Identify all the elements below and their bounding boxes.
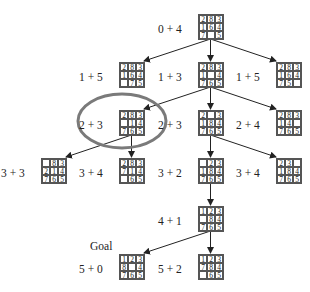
tile: 8 — [120, 263, 128, 271]
tile: 5 — [215, 223, 223, 231]
tile: 7 — [42, 175, 50, 183]
tile: 1 — [277, 167, 285, 175]
tile: 7 — [277, 175, 285, 183]
tile: 8 — [207, 63, 215, 71]
tile: 5 — [215, 271, 223, 279]
node-cost-label: 3 + 3 — [1, 167, 25, 179]
tile: 7 — [199, 79, 207, 87]
tile: 5 — [215, 127, 223, 135]
tile: 7 — [199, 31, 207, 39]
tile: 5 — [215, 79, 223, 87]
tile: 8 — [50, 159, 58, 167]
tile: 6 — [128, 175, 136, 183]
tile: 5 — [136, 271, 144, 279]
tile: 1 — [128, 167, 136, 175]
puzzle-board: 28371465 — [119, 158, 145, 184]
tile: 4 — [215, 263, 223, 271]
tile: 5 — [293, 127, 301, 135]
puzzle-board: 12384765 — [119, 254, 145, 280]
tile: 3 — [285, 159, 293, 167]
tile: 8 — [207, 215, 215, 223]
tile: 2 — [199, 63, 207, 71]
tile: 4 — [136, 263, 144, 271]
tile: 7 — [199, 127, 207, 135]
tile: 1 — [128, 119, 136, 127]
blank-tile — [120, 119, 128, 127]
tile: 6 — [285, 71, 293, 79]
tile: 2 — [207, 255, 215, 263]
tile: 3 — [215, 63, 223, 71]
edges-layer — [0, 0, 310, 292]
tile: 4 — [58, 167, 66, 175]
tile: 8 — [128, 111, 136, 119]
blank-tile — [199, 271, 207, 279]
blank-tile — [207, 71, 215, 79]
tile: 8 — [207, 15, 215, 23]
node-cost-label: 1 + 5 — [236, 71, 260, 83]
tile: 1 — [277, 71, 285, 79]
tile: 4 — [215, 23, 223, 31]
tile: 1 — [199, 119, 207, 127]
node-cost-label: 3 + 4 — [79, 167, 103, 179]
node-cost-label: 2 + 3 — [79, 119, 103, 131]
node-cost-label: 1 + 3 — [158, 71, 182, 83]
tile: 3 — [136, 159, 144, 167]
node-cost-label: 3 + 4 — [236, 167, 260, 179]
node-cost-label: 2 + 3 — [158, 119, 182, 131]
tile: 2 — [120, 159, 128, 167]
tree-edge-arrow — [66, 135, 132, 157]
node-cost-label: 2 + 4 — [236, 119, 260, 131]
tile: 3 — [136, 63, 144, 71]
tile: 3 — [136, 255, 144, 263]
tile: 4 — [215, 71, 223, 79]
tile: 6 — [207, 127, 215, 135]
blank-tile — [120, 79, 128, 87]
puzzle-board: 28314765 — [119, 110, 145, 136]
tile: 8 — [207, 119, 215, 127]
tile: 8 — [285, 111, 293, 119]
puzzle-board: 12384765 — [198, 206, 224, 232]
tile: 7 — [277, 79, 285, 87]
tile: 3 — [136, 111, 144, 119]
tile: 3 — [215, 159, 223, 167]
tile: 2 — [120, 111, 128, 119]
tile: 2 — [207, 207, 215, 215]
tile: 4 — [293, 71, 301, 79]
tile: 2 — [42, 167, 50, 175]
tile: 1 — [199, 207, 207, 215]
tile: 1 — [199, 71, 207, 79]
tile: 4 — [285, 119, 293, 127]
tile: 8 — [207, 263, 215, 271]
tile: 4 — [136, 119, 144, 127]
tile: 2 — [277, 111, 285, 119]
blank-tile — [199, 215, 207, 223]
tile: 7 — [199, 223, 207, 231]
tile: 5 — [293, 175, 301, 183]
tile: 1 — [199, 255, 207, 263]
tile: 8 — [128, 159, 136, 167]
node-cost-label: 5 + 0 — [79, 263, 103, 275]
tile: 3 — [215, 207, 223, 215]
blank-tile — [207, 31, 215, 39]
tile: 6 — [207, 79, 215, 87]
tree-edge-arrow — [211, 87, 277, 109]
blank-tile — [293, 119, 301, 127]
blank-tile — [128, 263, 136, 271]
node-cost-label: 0 + 4 — [158, 23, 182, 35]
node-cost-label: 3 + 2 — [158, 167, 182, 179]
tile: 5 — [215, 175, 223, 183]
tile: 1 — [199, 167, 207, 175]
tile: 2 — [199, 111, 207, 119]
tile: 7 — [277, 127, 285, 135]
tile: 3 — [215, 15, 223, 23]
tile: 3 — [215, 111, 223, 119]
tile: 6 — [207, 175, 215, 183]
tile: 7 — [120, 127, 128, 135]
tile: 5 — [58, 175, 66, 183]
blank-tile — [293, 79, 301, 87]
tile: 6 — [207, 23, 215, 31]
puzzle-board: 83214765 — [41, 158, 67, 184]
tile: 5 — [136, 79, 144, 87]
puzzle-board: 28316475 — [119, 62, 145, 88]
tile: 3 — [215, 255, 223, 263]
